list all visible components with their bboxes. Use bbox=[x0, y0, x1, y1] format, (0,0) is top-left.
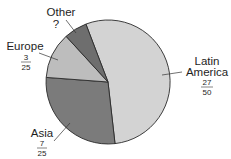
slice-asia bbox=[46, 77, 115, 144]
label-asia-denominator: 25 bbox=[38, 149, 47, 158]
label-latin-america-line2: America bbox=[186, 66, 229, 78]
label-other: Other bbox=[47, 6, 76, 18]
label-latin-america-denominator: 50 bbox=[203, 88, 212, 97]
label-asia-numerator: 7 bbox=[40, 139, 45, 148]
label-europe: Europe bbox=[6, 40, 43, 52]
label-other-value: ? bbox=[53, 18, 59, 30]
leader-asia bbox=[54, 123, 70, 141]
label-europe-denominator: 25 bbox=[22, 63, 31, 72]
pie-chart: Other ? Europe 3 25 Latin America 27 50 … bbox=[0, 0, 231, 159]
label-latin-america-numerator: 27 bbox=[203, 78, 212, 87]
label-europe-numerator: 3 bbox=[24, 53, 29, 62]
leader-other bbox=[66, 20, 76, 33]
label-asia: Asia bbox=[31, 127, 54, 139]
